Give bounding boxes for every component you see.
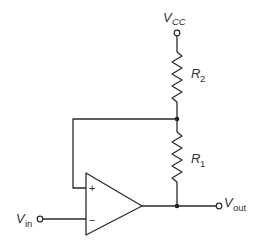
vin-label: V in [16, 211, 32, 229]
svg-text:2: 2 [200, 73, 205, 84]
r1-label: R 1 [191, 151, 205, 169]
svg-text:in: in [25, 218, 32, 229]
resistor-r2 [172, 52, 182, 105]
schematic-svg: V CC R 2 R 1 + − V [0, 0, 261, 247]
opamp-minus-sign: − [89, 214, 95, 226]
svg-text:CC: CC [172, 16, 186, 27]
circuit-diagram: V CC R 2 R 1 + − V [0, 0, 261, 247]
vcc-terminal [174, 30, 180, 36]
vin-terminal [37, 216, 43, 222]
resistor-r1 [172, 132, 182, 188]
vout-label: V out [224, 195, 247, 213]
svg-text:R: R [191, 151, 200, 166]
vout-terminal [216, 203, 222, 209]
wire-feedback-plus [73, 119, 177, 188]
vcc-label: V CC [163, 10, 186, 27]
svg-text:1: 1 [200, 158, 205, 169]
svg-text:R: R [191, 66, 200, 81]
r2-label: R 2 [191, 66, 205, 84]
opamp-plus-sign: + [89, 182, 95, 194]
svg-text:out: out [233, 202, 247, 213]
